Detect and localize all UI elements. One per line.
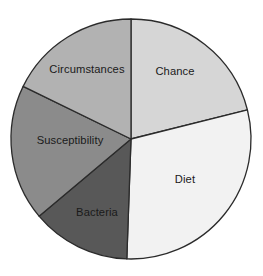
pie-slice-label-bacteria: Bacteria (76, 206, 119, 218)
pie-slice-label-susceptibility: Susceptibility (37, 134, 104, 146)
pie-slice-label-chance: Chance (155, 65, 194, 77)
pie-chart-figure: ChanceDietBacteriaSusceptibilityCircumst… (0, 0, 263, 276)
pie-slice-label-circumstances: Circumstances (49, 63, 125, 75)
pie-chart-canvas: ChanceDietBacteriaSusceptibilityCircumst… (0, 0, 263, 276)
pie-slice-label-diet: Diet (175, 173, 196, 185)
